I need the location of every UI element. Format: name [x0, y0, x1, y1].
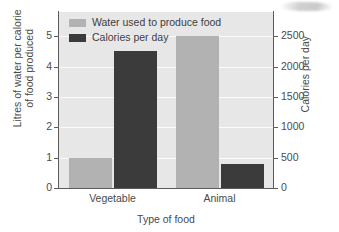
tick-mark — [274, 67, 278, 68]
bar-vegetable-water — [69, 158, 112, 188]
tick-mark — [54, 127, 58, 128]
x-axis-line — [58, 188, 274, 189]
tick-mark — [274, 127, 278, 128]
tick-label-left-3: 3 — [46, 91, 52, 102]
bar-animal-calories — [221, 164, 264, 188]
gridline — [59, 97, 273, 98]
y-axis-left-line — [58, 11, 59, 189]
tick-label-left-0: 0 — [46, 182, 52, 193]
y-axis-right-title: Calories per day — [299, 14, 311, 134]
x-axis-title: Type of food — [59, 213, 273, 225]
bar-vegetable-calories — [114, 51, 157, 188]
tick-mark — [54, 188, 58, 189]
gridline — [59, 127, 273, 128]
legend-swatch-icon — [69, 34, 86, 42]
tick-mark — [54, 67, 58, 68]
legend-item: Water used to produce food — [69, 16, 221, 29]
tick-mark — [274, 158, 278, 159]
tick-label-right-0: 0 — [281, 182, 287, 193]
legend-label: Water used to produce food — [92, 17, 221, 28]
legend-item: Calories per day — [69, 31, 221, 44]
tick-label-left-4: 4 — [46, 61, 52, 72]
tick-label-left-5: 5 — [46, 30, 52, 41]
chart-legend: Water used to produce foodCalories per d… — [69, 16, 221, 44]
tick-mark — [54, 158, 58, 159]
category-label-vegetable: Vegetable — [59, 192, 166, 204]
legend-label: Calories per day — [92, 32, 168, 43]
scan-smudge-artifact — [281, 2, 333, 11]
tick-label-left-2: 2 — [46, 121, 52, 132]
bar-animal-water — [176, 36, 219, 188]
tick-mark — [54, 36, 58, 37]
tick-mark — [274, 188, 278, 189]
tick-mark — [54, 97, 58, 98]
tick-label-right-500: 500 — [281, 152, 299, 163]
category-label-animal: Animal — [166, 192, 273, 204]
tick-mark — [274, 97, 278, 98]
y-axis-left-title: Litres of water per calorie of food prod… — [11, 0, 36, 139]
gridline — [59, 67, 273, 68]
y-axis-right-line — [273, 11, 274, 189]
tick-mark — [274, 36, 278, 37]
bar-chart-figure: 012345 05001000150020002500 VegetableAni… — [0, 0, 339, 232]
legend-swatch-icon — [69, 19, 86, 27]
tick-label-left-1: 1 — [46, 152, 52, 163]
